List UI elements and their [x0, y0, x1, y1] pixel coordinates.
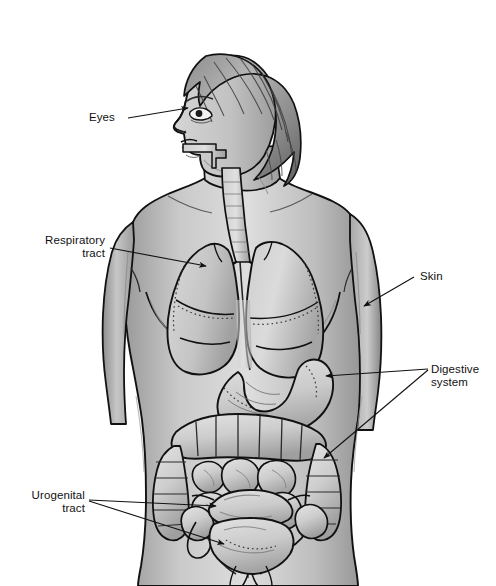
eye-pupil [196, 110, 203, 117]
label-urogenital-tract: Urogenital tract [32, 489, 85, 515]
esophagus-body [236, 300, 252, 368]
anatomy-figure: Eyes Respiratory tract Skin Digestive sy… [0, 0, 496, 586]
label-skin: Skin [420, 270, 443, 283]
label-digestive-system: Digestive system [431, 363, 479, 389]
label-respiratory-line1: Respiratory [45, 234, 105, 247]
label-respiratory-line2: tract [45, 247, 105, 260]
label-urogenital-line1: Urogenital [32, 489, 85, 502]
label-eyes: Eyes [89, 111, 115, 124]
eyes-leader [128, 108, 188, 118]
label-urogenital-line2: tract [32, 502, 85, 515]
label-skin-line1: Skin [420, 270, 443, 283]
label-digestive-line2: system [431, 376, 479, 389]
label-eyes-line1: Eyes [89, 111, 115, 124]
label-respiratory-tract: Respiratory tract [45, 234, 105, 260]
label-digestive-line1: Digestive [431, 363, 479, 376]
